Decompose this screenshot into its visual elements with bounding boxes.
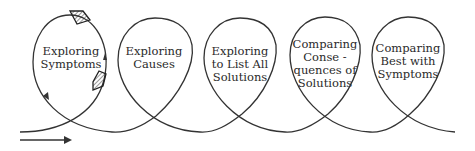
triangle-arrow-icon bbox=[43, 92, 49, 100]
label-line: Solutions bbox=[206, 71, 274, 84]
label-line: Solutions bbox=[292, 77, 358, 90]
stage-label-exploring-causes: Exploring Causes bbox=[120, 45, 188, 71]
stage-label-comparing-consequences: Comparing Conse - quences of Solutions bbox=[292, 38, 358, 90]
problem-solving-loop-diagram: Exploring Symptoms Exploring Causes Expl… bbox=[0, 0, 475, 151]
label-line: Causes bbox=[120, 58, 188, 71]
stage-label-exploring-symptoms: Exploring Symptoms bbox=[38, 45, 104, 71]
stage-label-comparing-best: Comparing Best with Symptoms bbox=[375, 42, 441, 81]
stage-label-exploring-solutions: Exploring to List All Solutions bbox=[206, 45, 274, 84]
label-line: Symptoms bbox=[38, 58, 104, 71]
label-line: Symptoms bbox=[375, 68, 441, 81]
hatched-diamond-icon bbox=[70, 11, 90, 24]
right-arrow-icon bbox=[64, 136, 72, 144]
hatched-diamond-icon bbox=[93, 71, 106, 90]
